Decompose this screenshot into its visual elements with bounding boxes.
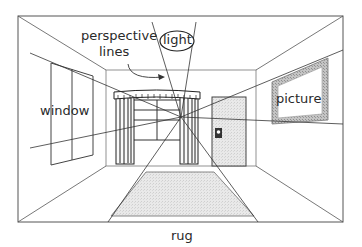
- light-label: light: [163, 33, 192, 46]
- rug: [111, 172, 254, 216]
- rug-label: rug: [171, 229, 193, 242]
- arrow-icon: [128, 64, 165, 80]
- door: [212, 97, 246, 166]
- back-window: [130, 100, 184, 140]
- perspective-label: perspective: [81, 29, 157, 42]
- lines-label: lines: [99, 45, 129, 58]
- picture-label: picture: [276, 92, 321, 105]
- window-label: window: [40, 104, 89, 117]
- perspective-room-diagram: perspective lines light window picture r…: [0, 0, 362, 247]
